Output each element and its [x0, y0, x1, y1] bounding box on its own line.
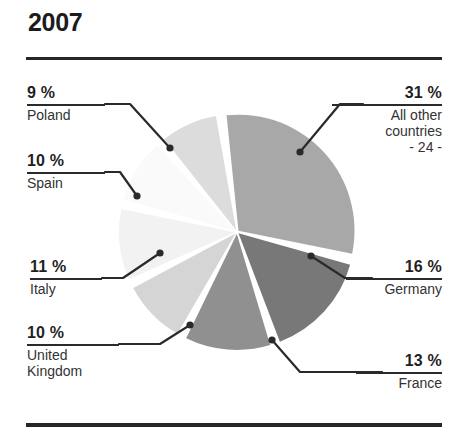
slice-label-all-other-countries: 31 % All other countries - 24 -	[332, 84, 442, 155]
slice-percent-united-kingdom: 10 %	[27, 324, 119, 342]
slice-percent-all-other-countries: 31 %	[332, 84, 442, 102]
label-rule-france	[356, 372, 442, 374]
slice-name-poland: Poland	[27, 107, 105, 123]
slice-percent-germany: 16 %	[346, 258, 442, 276]
slice-label-united-kingdom: 10 % United Kingdom	[27, 324, 119, 379]
slice-percent-italy: 11 %	[30, 258, 102, 276]
label-rule-poland	[27, 104, 105, 106]
slice-label-spain: 10 % Spain	[27, 152, 105, 191]
slice-label-france: 13 % France	[356, 352, 442, 391]
slice-percent-poland: 9 %	[27, 84, 105, 102]
slice-label-germany: 16 % Germany	[346, 258, 442, 297]
label-rule-all-other-countries	[332, 104, 442, 106]
slice-name-all-other-countries: All other countries - 24 -	[332, 107, 442, 155]
slice-percent-france: 13 %	[356, 352, 442, 370]
pie-chart-figure: 2007	[0, 0, 468, 441]
slice-label-italy: 11 % Italy	[30, 258, 102, 297]
label-rule-germany	[346, 278, 442, 280]
slice-name-spain: Spain	[27, 175, 105, 191]
slice-name-france: France	[356, 375, 442, 391]
slice-name-united-kingdom: United Kingdom	[27, 347, 119, 379]
slice-name-italy: Italy	[30, 281, 102, 297]
label-rule-united-kingdom	[27, 344, 119, 346]
slice-name-germany: Germany	[346, 281, 442, 297]
slice-percent-spain: 10 %	[27, 152, 105, 170]
footer-divider	[26, 423, 442, 427]
slice-label-poland: 9 % Poland	[27, 84, 105, 123]
label-rule-spain	[27, 172, 105, 174]
label-rule-italy	[30, 278, 102, 280]
